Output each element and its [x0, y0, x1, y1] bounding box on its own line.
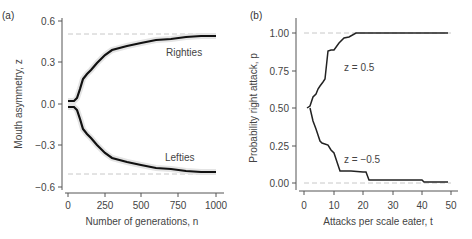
svg-text:0.0: 0.0 — [41, 99, 55, 110]
y-ticks-a: 0.6 0.3 0.0 −0.3 −0.6 — [35, 16, 62, 193]
svg-text:20: 20 — [357, 200, 369, 211]
chart-a: (a) 0.6 0.3 0.0 −0.3 −0.6 0 250 500 — [2, 10, 228, 227]
svg-text:750: 750 — [170, 200, 187, 211]
svg-text:0.75: 0.75 — [270, 66, 290, 77]
svg-text:0.50: 0.50 — [270, 103, 290, 114]
righties-band — [68, 36, 216, 101]
righties-label: Righties — [166, 47, 202, 58]
svg-text:0.00: 0.00 — [270, 178, 290, 189]
y-ticks-b: 1.00 0.75 0.50 0.25 0.00 — [270, 28, 296, 189]
svg-text:0.6: 0.6 — [41, 16, 55, 27]
panel-label-a: (a) — [2, 10, 14, 21]
svg-text:40: 40 — [416, 200, 428, 211]
svg-text:−0.6: −0.6 — [35, 182, 55, 193]
figure: (a) 0.6 0.3 0.0 −0.3 −0.6 0 250 500 — [0, 0, 472, 239]
x-axis-label-a: Number of generations, n — [86, 216, 199, 227]
svg-text:30: 30 — [387, 200, 399, 211]
curve-z-pos — [307, 33, 448, 108]
svg-text:1.00: 1.00 — [270, 28, 290, 39]
y-axis-label-a: Mouth asymmetry, z — [13, 59, 24, 148]
svg-text:50: 50 — [445, 200, 457, 211]
svg-text:0: 0 — [65, 200, 71, 211]
svg-text:500: 500 — [133, 200, 150, 211]
x-ticks-a: 0 250 500 750 1000 — [65, 193, 227, 211]
label-z-neg: z = −0.5 — [344, 154, 381, 165]
panel-label-b: (b) — [250, 10, 262, 21]
lefties-label: Lefties — [165, 152, 194, 163]
svg-text:250: 250 — [97, 200, 114, 211]
label-z-pos: z = 0.5 — [344, 62, 375, 73]
svg-text:−0.3: −0.3 — [35, 140, 55, 151]
curve-z-neg — [310, 108, 448, 182]
x-ticks-b: 0 10 20 30 40 50 — [301, 191, 457, 211]
svg-text:1000: 1000 — [205, 200, 228, 211]
svg-text:0.25: 0.25 — [270, 141, 290, 152]
svg-text:0.3: 0.3 — [41, 57, 55, 68]
x-axis-label-b: Attacks per scale eater, t — [323, 216, 433, 227]
svg-text:0: 0 — [301, 200, 307, 211]
y-axis-label-b: Probability right attack, p — [248, 53, 259, 163]
svg-text:10: 10 — [328, 200, 340, 211]
chart-b: (b) 1.00 0.75 0.50 0.25 0.00 0 10 20 30 — [248, 10, 458, 227]
